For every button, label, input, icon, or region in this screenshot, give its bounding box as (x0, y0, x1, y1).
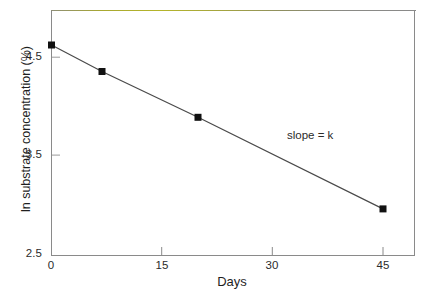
x-axis-ticks (162, 247, 383, 255)
data-point-marker (380, 205, 387, 212)
x-tick-label: 0 (31, 259, 71, 271)
y-axis-title: ln substrate concentration (%) (19, 9, 33, 249)
plot-canvas (0, 0, 426, 298)
data-point-marker (48, 42, 55, 49)
x-tick-label: 30 (252, 259, 292, 271)
data-point-marker (99, 68, 106, 75)
x-axis-title: Days (172, 274, 292, 289)
x-tick-label: 15 (142, 259, 182, 271)
slope-annotation: slope = k (287, 129, 333, 141)
chart-page: 4.5 3.5 2.5 0 15 30 45 ln substrate conc… (0, 0, 426, 298)
data-point-marker (195, 114, 202, 121)
x-tick-label: 45 (363, 259, 403, 271)
y-axis-ticks (52, 57, 60, 155)
